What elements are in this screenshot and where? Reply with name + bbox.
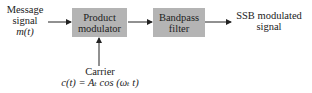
output-line1: SSB modulated xyxy=(232,10,306,21)
carrier-equation: c(t) = Aₜ cos (ωₜ t) xyxy=(50,77,150,88)
block-line1: Bandpass xyxy=(159,12,199,23)
output-line2: signal xyxy=(232,21,306,32)
block-line1: Product xyxy=(78,12,121,23)
message-math: m(t) xyxy=(16,26,34,37)
message-line2: signal xyxy=(2,15,48,26)
block-line2: modulator xyxy=(78,23,121,34)
product-modulator-block: Productmodulator xyxy=(72,8,127,37)
message-line1: Message xyxy=(2,4,48,15)
carrier-title: Carrier xyxy=(50,66,150,77)
ssb-output-label: SSB modulated signal xyxy=(232,10,306,32)
message-signal-label: Message signal m(t) xyxy=(2,4,48,37)
bandpass-filter-block: Bandpassfilter xyxy=(153,8,205,37)
block-line2: filter xyxy=(159,23,199,34)
carrier-label: Carrier c(t) = Aₜ cos (ωₜ t) xyxy=(50,66,150,88)
